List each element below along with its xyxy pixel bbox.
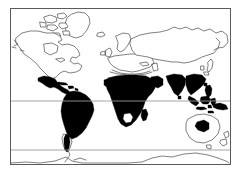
arctic-island-f xyxy=(63,31,70,35)
japan-south-outline xyxy=(204,72,209,75)
arctic-island-d xyxy=(40,22,46,27)
lesser-sunda-shaded xyxy=(208,111,214,113)
world-map-canvas xyxy=(0,0,240,172)
sri-lanka-shaded xyxy=(178,96,181,99)
taiwan-shaded xyxy=(204,83,207,86)
world-map-figure: World map showing shaded endemic distrib… xyxy=(0,0,240,172)
tasmania-outline xyxy=(207,145,211,149)
ireland-outline xyxy=(101,51,105,55)
